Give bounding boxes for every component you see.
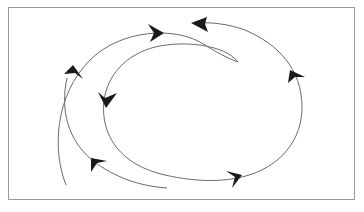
diagram-canvas bbox=[0, 0, 364, 212]
outer-top-arc bbox=[58, 33, 238, 185]
arrow-right-up-icon bbox=[288, 70, 305, 83]
cycle-diagram bbox=[0, 0, 364, 212]
outer-right-arc bbox=[196, 23, 302, 177]
arrow-inner-down-icon bbox=[98, 92, 117, 108]
inner-spiral bbox=[104, 44, 242, 181]
arrow-top-left-icon bbox=[191, 17, 208, 32]
